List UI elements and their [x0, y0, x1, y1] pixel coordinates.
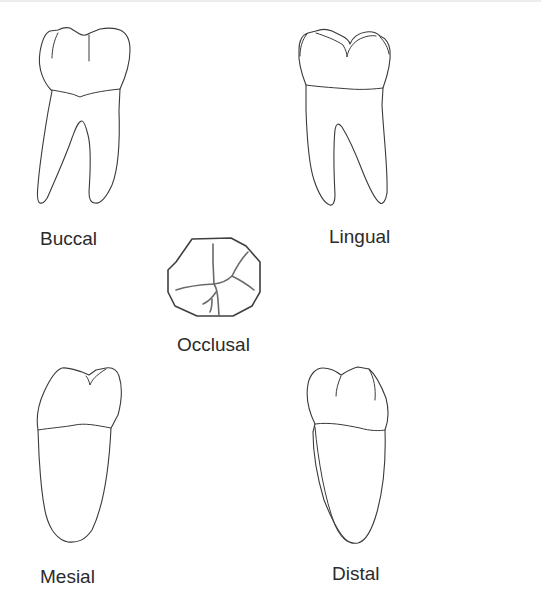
distal-label: Distal — [332, 563, 380, 585]
tooth-views-diagram: Buccal Lingual Occlusal Mesial Distal — [0, 0, 541, 593]
lingual-tooth-drawing — [299, 30, 390, 206]
mesial-label: Mesial — [40, 566, 95, 588]
buccal-tooth-drawing — [37, 28, 130, 204]
tooth-drawings — [0, 0, 541, 593]
distal-tooth-drawing — [307, 367, 388, 543]
mesial-tooth-drawing — [37, 368, 121, 542]
occlusal-tooth-drawing — [168, 238, 260, 316]
lingual-label: Lingual — [329, 226, 390, 248]
buccal-label: Buccal — [40, 228, 97, 250]
occlusal-label: Occlusal — [177, 334, 250, 356]
